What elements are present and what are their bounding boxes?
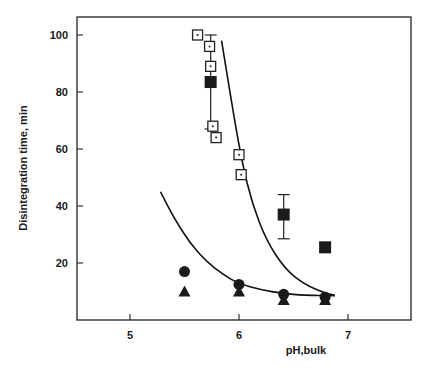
x-tick-label: 7 — [345, 329, 351, 341]
x-axis-ticks: 567 — [127, 314, 351, 341]
fit-curves — [161, 41, 335, 296]
y-tick-label: 40 — [56, 200, 68, 212]
x-tick-label: 5 — [127, 329, 133, 341]
y-axis-label: Disintegration time, min — [17, 105, 29, 231]
filled-square-marker — [205, 76, 217, 88]
filled-square-marker — [278, 209, 290, 221]
data-points — [179, 30, 332, 305]
y-tick-label: 20 — [56, 257, 68, 269]
y-tick-label: 60 — [56, 143, 68, 155]
x-tick-label: 6 — [236, 329, 242, 341]
y-axis-ticks: 20406080100 — [50, 29, 83, 269]
filled-triangle-marker — [179, 286, 191, 297]
fit-curve — [161, 192, 335, 296]
filled-circle-marker — [179, 266, 190, 277]
fit-curve — [222, 41, 335, 296]
y-tick-label: 80 — [56, 86, 68, 98]
filled-square-marker — [319, 241, 331, 253]
disintegration-time-chart: 20406080100 567 Disintegration time, min… — [0, 0, 426, 370]
x-axis-label: pH,bulk — [286, 344, 327, 356]
y-tick-label: 100 — [50, 29, 68, 41]
